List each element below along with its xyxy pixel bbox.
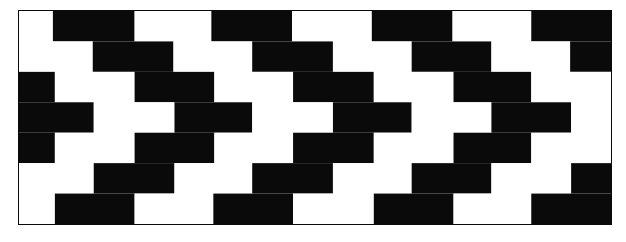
brick-tile-dark [374,194,454,224]
brick-tile-dark [19,72,55,102]
brick-tile-dark [211,11,292,41]
brick-tile-dark [19,102,94,132]
brick-tile-light [292,11,372,41]
brick-tile-light [19,41,93,71]
brick-tile-dark [53,11,135,41]
brick-tile-light [374,72,454,102]
brick-tile-dark [213,194,293,224]
brick-tile-dark [252,41,333,71]
brick-tile-light [19,194,55,224]
brick-tile-light [491,41,570,71]
brick-tile-dark [174,102,252,132]
brick-tile-dark [293,133,374,163]
brick-tile-dark [19,133,55,163]
brick-tile-light [531,72,611,102]
brick-tile-light [571,102,611,132]
brick-tile-light [252,102,333,132]
brick-tile-light [19,11,53,41]
brick-tile-dark [571,163,611,193]
brick-tile-light [333,163,412,193]
brick-tile-dark [135,72,215,102]
brick-tile-dark [454,133,532,163]
brick-tile-dark [412,163,492,193]
brick-tile-dark [293,72,374,102]
brick-tile-dark [531,194,611,224]
brick-tile-light [173,41,252,71]
brick-tile-dark [333,102,412,132]
brick-tile-dark [372,11,453,41]
brick-tile-dark [491,102,571,132]
figure-root [0,0,626,242]
pattern-border-frame [18,10,612,225]
brick-tile-light [174,163,252,193]
brick-tile-dark [94,163,175,193]
brick-tile-light [135,194,214,224]
brick-tile-light [55,72,135,102]
brick-tile-light [55,133,135,163]
brick-tile-dark [252,163,333,193]
brick-tile-light [19,163,94,193]
brick-tile-light [214,133,293,163]
brick-tile-dark [93,41,174,71]
brick-tile-light [374,133,454,163]
brick-tile-light [412,102,492,132]
brick-tile-light [94,102,175,132]
brick-tile-dark [531,11,611,41]
brick-tile-light [214,72,293,102]
brick-tile-dark [570,41,611,71]
brick-pattern-canvas [19,11,611,224]
brick-tile-light [333,41,412,71]
brick-tile-light [454,194,532,224]
brick-tiles-group [19,11,611,224]
brick-tile-dark [135,133,215,163]
brick-tile-light [491,163,571,193]
brick-tile-light [453,11,532,41]
brick-tile-light [135,11,212,41]
brick-tile-dark [412,41,492,71]
brick-tile-light [531,133,611,163]
brick-tile-light [293,194,374,224]
brick-tile-dark [55,194,135,224]
brick-tile-dark [454,72,532,102]
